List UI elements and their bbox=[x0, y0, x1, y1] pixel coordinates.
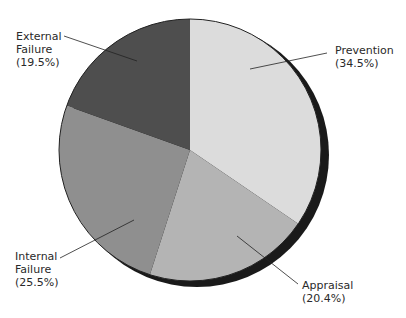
label-external-failure: External Failure (19.5%) bbox=[16, 30, 62, 69]
label-internal-failure: Internal Failure (25.5%) bbox=[15, 250, 59, 289]
pie-slices bbox=[59, 19, 321, 281]
label-prevention: Prevention (34.5%) bbox=[335, 44, 394, 70]
label-appraisal: Appraisal (20.4%) bbox=[302, 279, 353, 305]
